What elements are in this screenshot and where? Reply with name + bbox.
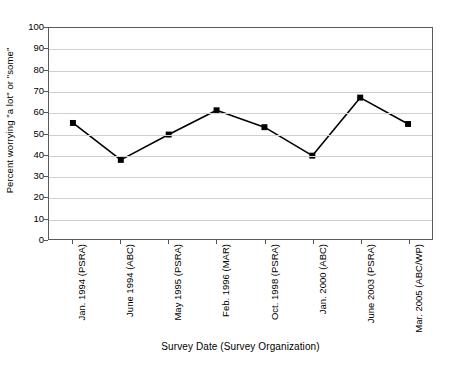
x-axis-tick-label: Oct. 1998 (PSRA): [269, 244, 280, 320]
y-axis-tick-label: 30: [18, 171, 44, 181]
y-axis-tick-label: 100: [18, 22, 44, 32]
y-axis-tick-label: 80: [18, 65, 44, 75]
x-axis-tick-labels: Jan. 1994 (PSRA)June 1994 (ABC)May 1995 …: [48, 240, 433, 340]
plot-area: [48, 27, 433, 240]
y-axis-tick-label: 50: [18, 129, 44, 139]
gridline: [49, 220, 432, 221]
y-axis-tick-labels: 0102030405060708090100: [18, 27, 44, 240]
data-point-marker: [70, 120, 76, 126]
series-line: [73, 98, 408, 160]
y-axis-tick-label: 10: [18, 214, 44, 224]
y-axis-tick-label: 70: [18, 86, 44, 96]
data-point-marker: [405, 121, 411, 127]
y-axis-tick-mark: [44, 112, 48, 113]
x-axis-tick-mark: [313, 240, 314, 244]
gridline: [49, 92, 432, 93]
gridline: [49, 177, 432, 178]
y-axis-tick-mark: [44, 176, 48, 177]
y-axis-tick-mark: [44, 27, 48, 28]
gridline: [49, 198, 432, 199]
data-point-marker: [118, 157, 124, 163]
line-chart: Percent worrying "a lot" or "some" 01020…: [0, 0, 449, 371]
x-axis-tick-mark: [120, 240, 121, 244]
x-axis-tick-label: May 1995 (PSRA): [172, 244, 183, 321]
x-axis-tick-mark: [72, 240, 73, 244]
y-axis-tick-label: 20: [18, 192, 44, 202]
y-axis-tick-label: 60: [18, 107, 44, 117]
y-axis-tick-mark: [44, 197, 48, 198]
x-axis-tick-label: June 1994 (ABC): [124, 244, 135, 317]
gridline: [49, 135, 432, 136]
y-axis-tick-mark: [44, 240, 48, 241]
data-series: [49, 28, 432, 239]
x-axis-tick-label: June 2003 (PSRA): [365, 244, 376, 323]
y-axis-tick-mark: [44, 48, 48, 49]
y-axis-tick-mark: [44, 155, 48, 156]
x-axis-tick-mark: [409, 240, 410, 244]
x-axis-tick-label: Jan. 1994 (PSRA): [76, 244, 87, 321]
x-axis-tick-label: Mar. 2005 (ABC/WP): [413, 244, 424, 333]
gridline: [49, 156, 432, 157]
x-axis-tick-mark: [168, 240, 169, 244]
y-axis-tick-label: 0: [18, 235, 44, 245]
x-axis-tick-mark: [361, 240, 362, 244]
x-axis-title: Survey Date (Survey Organization): [48, 341, 433, 352]
gridline: [49, 113, 432, 114]
gridline: [49, 71, 432, 72]
x-axis-tick-mark: [265, 240, 266, 244]
data-point-marker: [357, 95, 363, 101]
x-axis-tick-mark: [216, 240, 217, 244]
y-axis-tick-mark: [44, 219, 48, 220]
y-axis-tick-label: 90: [18, 43, 44, 53]
y-axis-tick-mark: [44, 91, 48, 92]
x-axis-tick-label: Feb. 1996 (MAR): [220, 244, 231, 317]
y-axis-title-text: Percent worrying "a lot" or "some": [5, 47, 16, 193]
y-axis-title: Percent worrying "a lot" or "some": [0, 0, 20, 240]
y-axis-tick-mark: [44, 70, 48, 71]
y-axis-tick-mark: [44, 134, 48, 135]
y-axis-tick-label: 40: [18, 150, 44, 160]
gridline: [49, 49, 432, 50]
data-point-marker: [261, 124, 267, 130]
x-axis-tick-label: Jan. 2000 (ABC): [317, 244, 328, 314]
